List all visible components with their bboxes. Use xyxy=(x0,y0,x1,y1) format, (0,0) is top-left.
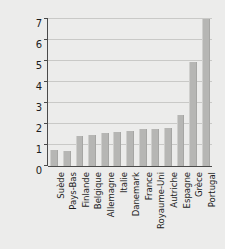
bar xyxy=(126,131,134,166)
gridline xyxy=(48,60,212,61)
bar xyxy=(63,151,71,166)
x-axis-tick-label: Royaume-Uni xyxy=(157,172,166,229)
bar xyxy=(164,128,172,166)
x-axis-tick-label: Danemark xyxy=(132,172,141,216)
plot-inner xyxy=(48,19,212,166)
y-axis-tick xyxy=(44,18,48,19)
gridline xyxy=(48,102,212,103)
x-axis-tick-label: Autriche xyxy=(170,172,179,208)
x-axis-tick-label: Suède xyxy=(57,172,66,199)
bar xyxy=(202,19,210,166)
y-axis-tick xyxy=(44,81,48,82)
x-axis-tick-label: Espagne xyxy=(183,172,192,208)
bar xyxy=(101,133,109,166)
y-axis-tick xyxy=(44,144,48,145)
y-axis-tick xyxy=(44,165,48,166)
gridline xyxy=(48,39,212,40)
y-axis-tick xyxy=(44,102,48,103)
x-axis-tick-label: Belgique xyxy=(94,172,103,209)
x-axis-tick-label: France xyxy=(145,172,154,200)
bar xyxy=(50,150,58,166)
gridline xyxy=(48,18,212,19)
x-axis-tick-label: Allemagne xyxy=(107,172,116,217)
plot-area: 01234567 xyxy=(47,19,212,166)
bar xyxy=(151,129,159,166)
x-axis-tick-label: Finlande xyxy=(82,172,91,208)
bar xyxy=(113,132,121,166)
y-axis-tick xyxy=(44,60,48,61)
x-axis-tick-label: Portugal xyxy=(208,172,217,207)
bar xyxy=(189,62,197,166)
bar xyxy=(177,115,185,166)
x-axis-tick-label: Grèce xyxy=(195,172,204,197)
bar xyxy=(88,135,96,167)
gridline xyxy=(48,123,212,124)
bar xyxy=(76,136,84,166)
chart-figure: Dans un an: nombre de blessés/1000 popul… xyxy=(0,0,225,249)
gridline xyxy=(48,81,212,82)
y-axis-tick xyxy=(44,39,48,40)
bar xyxy=(139,129,147,166)
y-axis-tick xyxy=(44,123,48,124)
x-axis-tick-label: Italie xyxy=(120,172,129,193)
x-axis-tick-label: Pays-Bas xyxy=(69,172,78,210)
x-axis-line xyxy=(48,166,212,167)
